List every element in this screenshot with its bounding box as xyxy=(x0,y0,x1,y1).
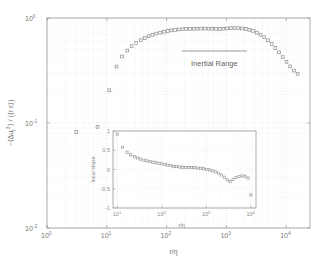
inset-x-tick-label-1: 102 xyxy=(157,210,166,218)
y-tick-label-2: 10-2 xyxy=(25,223,37,232)
data-point xyxy=(241,27,244,30)
data-point xyxy=(151,34,154,37)
data-point xyxy=(177,28,180,31)
data-point xyxy=(229,27,232,30)
data-point xyxy=(255,31,258,34)
data-point xyxy=(162,30,165,33)
inset-yaxis-label-text: local slope xyxy=(90,157,96,183)
data-point xyxy=(285,60,288,63)
data-point xyxy=(203,27,206,30)
data-point xyxy=(218,28,221,31)
x-tick-label-0: 100 xyxy=(41,230,52,239)
data-point xyxy=(121,55,124,58)
data-point xyxy=(274,47,277,50)
figure-container: 10010110210310410010-110-2r/η−⟨Δur3⟩ / (… xyxy=(0,0,328,274)
data-point xyxy=(135,41,138,44)
main-xaxis-label: r/η xyxy=(170,248,178,256)
data-point xyxy=(139,39,142,42)
inset-y-tick-label-4: -1 xyxy=(105,205,110,211)
main-yaxis-label: −⟨Δur3⟩ / (⟨r ε⟩) xyxy=(5,99,16,146)
inertial-range-annotation: Inertial Range xyxy=(182,51,247,68)
y-tick-label-0: 100 xyxy=(25,13,36,22)
inset-y-tick-label-2: 0 xyxy=(107,167,110,173)
data-point xyxy=(174,29,177,32)
inset-y-tick-label-0: 1 xyxy=(107,128,110,134)
inset-xaxis-label: r/η xyxy=(179,222,185,228)
data-point xyxy=(263,36,266,39)
data-point xyxy=(296,72,299,75)
x-tick-label-1: 101 xyxy=(101,230,112,239)
data-point xyxy=(159,31,162,34)
data-point xyxy=(259,33,262,36)
inertial-range-label: Inertial Range xyxy=(191,59,238,68)
data-point xyxy=(293,69,296,72)
data-point xyxy=(226,27,229,30)
inset-y-tick-label-3: -0.5 xyxy=(101,186,110,192)
inset-yaxis-label: local slope xyxy=(90,157,96,183)
structure-function-plot: 10010110210310410010-110-2r/η−⟨Δur3⟩ / (… xyxy=(0,0,328,274)
inset-x-tick-label-0: 101 xyxy=(113,210,122,218)
data-point xyxy=(278,51,281,54)
inset-x-tick-label-2: 103 xyxy=(202,210,211,218)
data-point xyxy=(170,29,173,32)
data-point xyxy=(289,65,292,68)
data-point xyxy=(248,28,251,31)
data-point xyxy=(270,43,273,46)
main-yaxis-label-text: −⟨Δur3⟩ / (⟨r ε⟩) xyxy=(5,99,16,146)
x-tick-label-2: 102 xyxy=(161,230,172,239)
data-point xyxy=(215,27,218,30)
data-point xyxy=(267,39,270,42)
data-point xyxy=(196,27,199,30)
data-point xyxy=(189,27,192,30)
data-point xyxy=(252,30,255,33)
inset-axes-group: 10110210310410.50-0.5-1r/ηlocal slope xyxy=(90,128,256,228)
data-point xyxy=(143,37,146,40)
x-tick-label-3: 103 xyxy=(220,230,231,239)
x-tick-label-4: 104 xyxy=(280,230,291,239)
data-point xyxy=(281,56,284,59)
y-tick-label-1: 10-1 xyxy=(25,118,37,127)
data-point xyxy=(192,27,195,30)
inset-y-tick-label-1: 0.5 xyxy=(102,147,110,153)
data-point xyxy=(115,65,118,68)
inset-x-tick-label-3: 104 xyxy=(246,210,255,218)
data-point xyxy=(222,27,225,30)
main-data-markers xyxy=(75,27,299,134)
data-point xyxy=(200,27,203,30)
data-point xyxy=(130,45,133,48)
